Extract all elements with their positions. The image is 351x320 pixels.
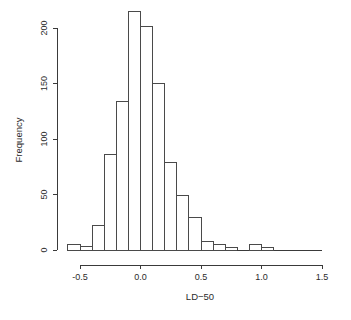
histogram-plot: 050100150200 -0.50.00.51.01.5 Frequency … xyxy=(0,0,351,320)
histogram-bar xyxy=(128,11,140,250)
x-axis: -0.50.00.51.01.5 xyxy=(72,265,328,282)
x-axis-tick-label: 1.0 xyxy=(255,272,268,282)
x-axis-tick-label: 0.0 xyxy=(134,272,147,282)
histogram-bar xyxy=(262,248,274,250)
histogram-bar xyxy=(201,241,213,250)
histogram-bar xyxy=(165,162,177,250)
x-axis-tick-label: 0.5 xyxy=(195,272,208,282)
y-axis: 050100150200 xyxy=(39,20,57,252)
y-axis-tick-label: 100 xyxy=(39,131,49,146)
histogram-bar xyxy=(189,218,201,250)
histogram-bar xyxy=(116,101,128,250)
histogram-bar xyxy=(213,244,225,250)
y-axis-title: Frequency xyxy=(13,117,24,162)
histogram-bar xyxy=(225,248,237,250)
y-axis-tick-label: 0 xyxy=(39,247,49,252)
histogram-canvas: 050100150200 -0.50.00.51.01.5 Frequency … xyxy=(0,0,351,320)
bars-layer xyxy=(68,11,322,250)
histogram-bar xyxy=(92,226,104,250)
y-axis-tick-label: 200 xyxy=(39,20,49,35)
histogram-bar xyxy=(153,84,165,251)
histogram-bar xyxy=(68,244,80,250)
y-axis-tick-label: 50 xyxy=(39,189,49,199)
x-axis-tick-label: -0.5 xyxy=(72,272,88,282)
y-axis-tick-label: 150 xyxy=(39,76,49,91)
x-axis-title: LD−50 xyxy=(186,291,214,302)
histogram-bar xyxy=(104,155,116,250)
histogram-bar xyxy=(249,244,261,250)
histogram-bar xyxy=(177,196,189,250)
x-axis-tick-label: 1.5 xyxy=(316,272,329,282)
histogram-bar xyxy=(80,247,92,250)
histogram-bar xyxy=(141,27,153,250)
